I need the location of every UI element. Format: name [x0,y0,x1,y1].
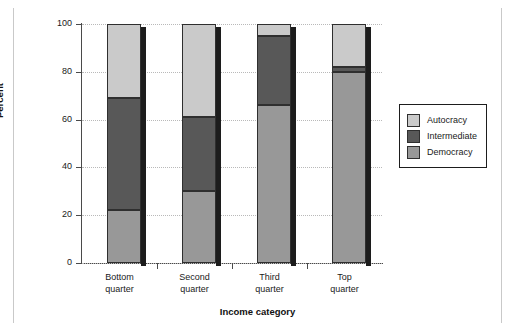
figure-right-rule [501,8,502,323]
bar-shadow [216,27,221,266]
y-axis-tick-label: 60 [44,115,72,124]
bar-segment-democracy[interactable] [182,191,216,263]
y-axis-tick [76,72,81,73]
y-axis-tick-label: 20 [44,210,72,219]
x-axis-category-label-line: Third [227,272,313,284]
bar-segment-democracy[interactable] [107,210,141,263]
x-axis-category-label-line: quarter [227,284,313,296]
legend-item[interactable]: Democracy [407,144,477,160]
x-axis-title: Income category [0,306,515,317]
bar-segment-intermediate[interactable] [182,117,216,191]
y-axis-title: Percent [0,83,5,118]
y-axis-tick-label: 100 [44,19,72,28]
bar-segment-autocracy[interactable] [182,24,216,117]
x-axis-category-label-line: Top [302,272,388,284]
chart-figure: Percent 020406080100 BottomquarterSecond… [0,0,515,331]
bar-segment-democracy[interactable] [332,72,366,263]
legend-item[interactable]: Intermediate [407,128,477,144]
y-axis-tick [76,263,81,264]
bar-shadow [291,27,296,266]
bar-segment-intermediate[interactable] [257,36,291,105]
y-axis-tick-label: 40 [44,162,72,171]
bar-stack[interactable] [257,24,291,263]
legend-item[interactable]: Autocracy [407,112,477,128]
x-axis-category-label-line: quarter [77,284,163,296]
legend-swatch-icon [407,114,420,127]
y-axis-tick [76,167,81,168]
y-axis-tick [76,215,81,216]
x-axis-category-label: Secondquarter [152,272,238,295]
bar-segment-autocracy[interactable] [107,24,141,98]
x-axis-tick [157,263,158,269]
bar-segment-autocracy[interactable] [332,24,366,67]
bar-segment-intermediate[interactable] [107,98,141,210]
legend-item-label: Intermediate [427,131,477,141]
y-axis-tick-label: 0 [44,258,72,267]
bar-shadow [366,27,371,266]
bar-stack[interactable] [107,24,141,263]
figure-left-rule [13,8,14,323]
legend-item-label: Democracy [427,147,473,157]
bar-shadow [141,27,146,266]
x-axis-tick [307,263,308,269]
legend-swatch-icon [407,130,420,143]
x-axis-category-label: Topquarter [302,272,388,295]
y-axis-tick-label: 80 [44,67,72,76]
bar-segment-democracy[interactable] [257,105,291,263]
bar-stack[interactable] [182,24,216,263]
x-axis-category-label-line: quarter [302,284,388,296]
x-axis-category-label: Thirdquarter [227,272,313,295]
y-axis-tick [76,120,81,121]
bar-segment-intermediate[interactable] [332,67,366,72]
x-axis-category-label-line: Bottom [77,272,163,284]
x-axis-category-label-line: Second [152,272,238,284]
plot-area [82,24,382,263]
chart-legend: AutocracyIntermediateDemocracy [399,104,487,168]
legend-swatch-icon [407,146,420,159]
legend-item-label: Autocracy [427,115,467,125]
x-axis-category-label: Bottomquarter [77,272,163,295]
bar-stack[interactable] [332,24,366,263]
x-axis-category-label-line: quarter [152,284,238,296]
bar-segment-autocracy[interactable] [257,24,291,36]
x-axis-tick [232,263,233,269]
y-axis-tick [76,24,81,25]
